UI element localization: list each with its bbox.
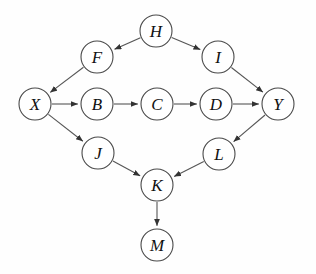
graph-node-i[interactable]: I xyxy=(202,41,234,73)
graph-node-m[interactable]: M xyxy=(141,229,173,261)
graph-node-label-x: X xyxy=(29,95,41,114)
graph-svg: HFIXBCDYJLKM xyxy=(0,0,316,274)
graph-node-label-f: F xyxy=(91,48,103,67)
graph-node-l[interactable]: L xyxy=(203,138,235,170)
graph-edge-l-to-k xyxy=(174,162,204,177)
graph-node-h[interactable]: H xyxy=(140,15,172,47)
graph-node-c[interactable]: C xyxy=(141,88,173,120)
graph-node-label-d: D xyxy=(209,95,223,114)
graph-node-f[interactable]: F xyxy=(81,41,113,73)
graph-edge-i-to-y xyxy=(231,67,263,92)
graph-canvas: HFIXBCDYJLKM xyxy=(0,0,316,274)
graph-node-label-l: L xyxy=(213,145,223,164)
graph-node-label-c: C xyxy=(151,95,163,114)
graph-node-b[interactable]: B xyxy=(81,88,113,120)
graph-edge-y-to-l xyxy=(234,115,265,142)
graph-node-k[interactable]: K xyxy=(141,169,173,201)
graph-node-label-k: K xyxy=(150,176,164,195)
graph-node-y[interactable]: Y xyxy=(262,88,294,120)
graph-node-d[interactable]: D xyxy=(200,88,232,120)
graph-node-x[interactable]: X xyxy=(19,88,51,120)
graph-node-j[interactable]: J xyxy=(82,137,114,169)
graph-node-label-y: Y xyxy=(273,95,284,114)
graph-edge-h-to-i xyxy=(172,38,201,50)
graph-edge-j-to-k xyxy=(113,161,140,176)
graph-node-label-b: B xyxy=(92,95,103,114)
graph-edge-x-to-j xyxy=(48,114,82,141)
graph-edge-f-to-x xyxy=(50,67,83,92)
graph-node-label-m: M xyxy=(149,236,165,255)
graph-edge-h-to-f xyxy=(115,38,141,49)
graph-node-label-h: H xyxy=(149,22,164,41)
